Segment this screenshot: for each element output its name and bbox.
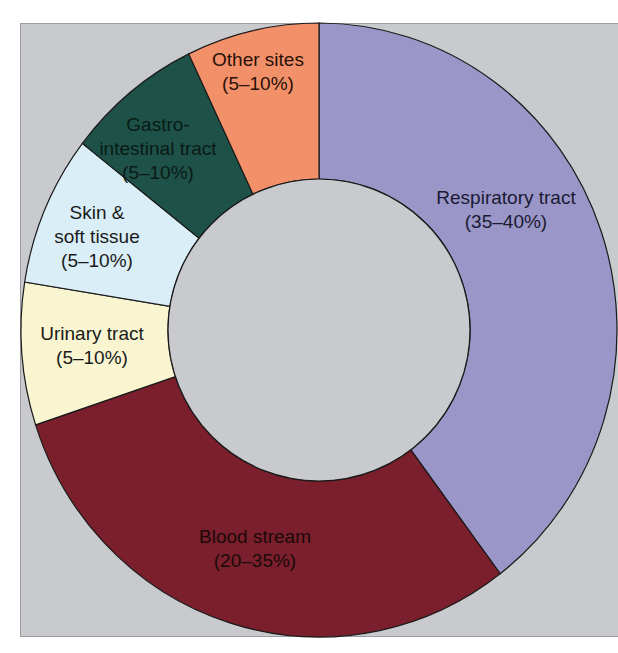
slice-percent-label: (20–35%) bbox=[214, 550, 296, 571]
slice-name-label: Gastro- bbox=[126, 114, 189, 135]
slice-name-label: Other sites bbox=[212, 49, 304, 70]
slice-percent-label: (5–10%) bbox=[61, 250, 133, 271]
slice-name-label: intestinal tract bbox=[99, 138, 217, 159]
slice-name-label: Blood stream bbox=[199, 526, 311, 547]
slice-name-label: Skin & bbox=[70, 202, 125, 223]
slice-percent-label: (5–10%) bbox=[222, 73, 294, 94]
slice-percent-label: (5–10%) bbox=[56, 347, 128, 368]
donut-hole bbox=[168, 179, 470, 481]
donut-chart: Respiratory tract(35–40%)Blood stream(20… bbox=[0, 0, 618, 653]
slice-percent-label: (35–40%) bbox=[465, 211, 547, 232]
slice-name-label: Respiratory tract bbox=[436, 187, 576, 208]
slice-name-label: soft tissue bbox=[54, 226, 140, 247]
slice-name-label: Urinary tract bbox=[40, 323, 144, 344]
slice-percent-label: (5–10%) bbox=[122, 162, 194, 183]
